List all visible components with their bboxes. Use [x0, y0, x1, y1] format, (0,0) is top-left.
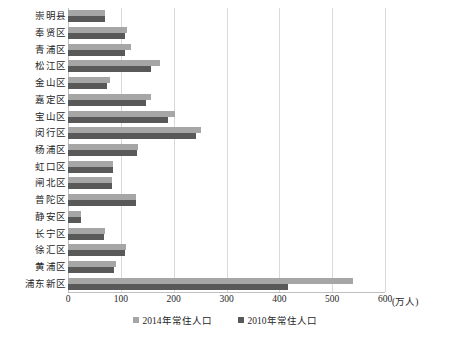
chart-legend: 2014年常住人口2010年常住人口 — [0, 313, 449, 327]
x-tick-200: 200 — [167, 294, 181, 304]
bar-group — [68, 158, 385, 175]
bar-group — [68, 142, 385, 159]
bar-2010 — [68, 150, 137, 156]
y-axis-label-5: 嘉定区 — [2, 95, 66, 105]
x-tick-600: 600 — [378, 294, 392, 304]
bar-group — [68, 8, 385, 25]
bar-2010 — [68, 183, 112, 189]
x-tick-100: 100 — [114, 294, 128, 304]
legend-label: 2010年常住人口 — [248, 313, 317, 327]
y-axis-label-1: 奉贤区 — [2, 28, 66, 38]
bar-2010 — [68, 83, 107, 89]
bar-group — [68, 25, 385, 42]
plot-area — [68, 8, 385, 292]
bar-group — [68, 125, 385, 142]
bar-2010 — [68, 66, 151, 72]
x-tick-300: 300 — [219, 294, 233, 304]
bar-2010 — [68, 133, 196, 139]
y-axis-label-14: 徐汇区 — [2, 245, 66, 255]
legend-label: 2014年常住人口 — [143, 313, 212, 327]
bar-group — [68, 225, 385, 242]
bar-2010 — [68, 117, 168, 123]
bar-2010 — [68, 50, 125, 56]
bar-2010 — [68, 33, 125, 39]
population-bar-chart: 崇明县奉贤区青浦区松江区金山区嘉定区宝山区闵行区杨浦区虹口区闸北区普陀区静安区长… — [0, 0, 449, 346]
y-axis-label-2: 青浦区 — [2, 45, 66, 55]
legend-square-swatch — [238, 317, 244, 323]
bar-2010 — [68, 16, 105, 22]
y-axis-label-9: 虹口区 — [2, 162, 66, 172]
bar-group — [68, 275, 385, 292]
bar-2010 — [68, 250, 125, 256]
y-axis-label-11: 普陀区 — [2, 195, 66, 205]
bar-2010 — [68, 267, 114, 273]
x-tick-400: 400 — [272, 294, 286, 304]
x-axis-line — [68, 292, 385, 293]
bar-group — [68, 175, 385, 192]
y-axis-label-4: 金山区 — [2, 78, 66, 88]
bar-group — [68, 259, 385, 276]
y-axis-label-13: 长宁区 — [2, 229, 66, 239]
gridline-600 — [385, 8, 386, 292]
y-axis-category-labels: 崇明县奉贤区青浦区松江区金山区嘉定区宝山区闵行区杨浦区虹口区闸北区普陀区静安区长… — [0, 8, 66, 292]
legend-item-1[interactable]: 2010年常住人口 — [238, 313, 317, 327]
bar-group — [68, 192, 385, 209]
bar-group — [68, 58, 385, 75]
bar-2010 — [68, 217, 81, 223]
y-axis-label-15: 黄浦区 — [2, 262, 66, 272]
bar-group — [68, 242, 385, 259]
bar-group — [68, 75, 385, 92]
x-axis-unit-label: (万人) — [392, 294, 418, 308]
y-axis-label-3: 松江区 — [2, 61, 66, 71]
x-axis-tick-labels: (万人) 0100200300400500600 — [0, 294, 449, 310]
y-axis-label-12: 静安区 — [2, 212, 66, 222]
y-axis-label-8: 杨浦区 — [2, 145, 66, 155]
y-axis-label-10: 闸北区 — [2, 178, 66, 188]
y-axis-label-0: 崇明县 — [2, 11, 66, 21]
bar-2010 — [68, 234, 104, 240]
y-axis-label-16: 浦东新区 — [2, 279, 66, 289]
bar-2010 — [68, 284, 288, 290]
legend-item-0[interactable]: 2014年常住人口 — [133, 313, 212, 327]
bar-group — [68, 108, 385, 125]
bar-group — [68, 208, 385, 225]
y-axis-label-6: 宝山区 — [2, 112, 66, 122]
x-tick-0: 0 — [66, 294, 71, 304]
legend-square-swatch — [133, 317, 139, 323]
x-tick-500: 500 — [325, 294, 339, 304]
bar-2010 — [68, 100, 146, 106]
bar-2010 — [68, 200, 136, 206]
bar-2010 — [68, 167, 113, 173]
bar-group — [68, 41, 385, 58]
bar-group — [68, 92, 385, 109]
y-axis-label-7: 闵行区 — [2, 128, 66, 138]
